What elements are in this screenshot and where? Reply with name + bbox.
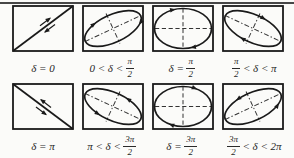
panel-label: δ = 3π 2 <box>148 133 218 158</box>
diagonal-line-up-figure <box>12 5 74 52</box>
minor-axis-dashed-line <box>246 14 260 44</box>
oscillation-line <box>13 6 73 51</box>
fraction-denominator: 2 <box>188 69 193 79</box>
fraction-denominator: 2 <box>188 147 193 157</box>
fraction: π 2 <box>186 57 195 79</box>
panel-label: δ = 0 <box>8 55 78 81</box>
fraction-numerator: π <box>186 57 195 68</box>
panel-delta-pi2: δ = π 2 <box>148 5 218 81</box>
panel-label: δ = π <box>8 133 78 158</box>
fraction-numerator: 3π <box>227 135 240 146</box>
fraction-denominator: 2 <box>128 69 133 79</box>
panel-delta-0: δ = 0 <box>8 5 78 81</box>
label-text: π < δ < <box>87 140 121 152</box>
oscillation-line <box>13 84 73 129</box>
label-text: < δ < 2π <box>242 140 281 152</box>
polarization-ellipse <box>222 5 284 52</box>
minor-axis-dashed-line <box>106 92 120 122</box>
top-rule-divider <box>0 2 294 4</box>
fraction: 3π 2 <box>227 135 240 157</box>
label-text: δ = <box>169 62 184 74</box>
panel-pi-to-3pi2: π < δ < 3π 2 <box>78 83 148 158</box>
axis-ellipse-figure <box>152 5 214 52</box>
phase-ellipse-diagram-sheet: δ = 0 0 < δ < π 2 <box>0 0 294 158</box>
panel-3pi2-to-2pi: 3π 2 < δ < 2π <box>218 83 288 158</box>
tilted-ellipse-up-figure <box>82 5 144 52</box>
fraction-numerator: 3π <box>184 135 197 146</box>
panel-delta-3pi2: δ = 3π 2 <box>148 83 218 158</box>
panel-label: 3π 2 < δ < 2π <box>218 133 288 158</box>
panel-0-to-pi2: 0 < δ < π 2 <box>78 5 148 81</box>
fraction-numerator: π <box>232 57 241 68</box>
polarization-ellipse <box>82 83 144 130</box>
tilted-ellipse-down-figure <box>82 83 144 130</box>
tilted-ellipse-down-figure <box>222 5 284 52</box>
panel-label: 0 < δ < π 2 <box>78 55 148 81</box>
axis-ellipse-figure <box>152 83 214 130</box>
fraction: π 2 <box>126 57 135 79</box>
tilted-ellipse-up-figure <box>222 83 284 130</box>
fraction: π 2 <box>232 57 241 79</box>
label-text: 0 < δ < <box>89 62 123 74</box>
panel-delta-pi: δ = π <box>8 83 78 158</box>
major-axis-dashed-line <box>85 93 141 119</box>
label-text: δ = 0 <box>31 62 55 74</box>
major-axis-dashed-line <box>225 15 281 41</box>
major-axis-dashed-line <box>85 15 141 41</box>
label-text: < δ < π <box>243 62 277 74</box>
panel-label: δ = π 2 <box>148 55 218 81</box>
fraction-denominator: 2 <box>231 147 236 157</box>
major-axis-dashed-line <box>225 93 281 119</box>
fraction-denominator: 2 <box>128 147 133 157</box>
fraction: 3π 2 <box>123 135 136 157</box>
diagonal-line-down-figure <box>12 83 74 130</box>
minor-axis-dashed-line <box>106 14 120 44</box>
fraction-denominator: 2 <box>234 69 239 79</box>
panel-label: π < δ < 3π 2 <box>78 133 148 158</box>
polarization-ellipse <box>82 5 144 52</box>
label-text: δ = π <box>31 140 55 152</box>
panel-pi2-to-pi: π 2 < δ < π <box>218 5 288 81</box>
fraction: 3π 2 <box>184 135 197 157</box>
minor-axis-dashed-line <box>246 92 260 122</box>
fraction-numerator: 3π <box>123 135 136 146</box>
panel-label: π 2 < δ < π <box>218 55 288 81</box>
fraction-numerator: π <box>126 57 135 68</box>
label-text: δ = <box>166 140 181 152</box>
